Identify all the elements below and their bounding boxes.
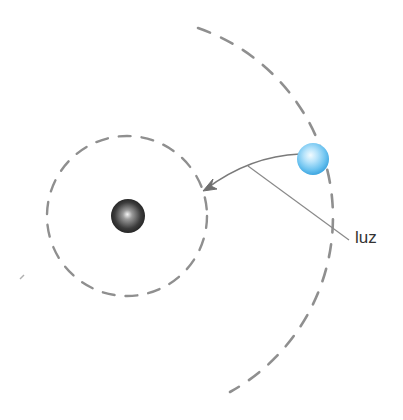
- light-label: luz: [355, 228, 377, 248]
- particle-sphere: [297, 143, 329, 175]
- orbit-diagram: [0, 0, 403, 420]
- trajectory-arrow: [206, 154, 300, 189]
- label-leader-line: [248, 166, 349, 240]
- arrowhead-icon: [203, 179, 217, 191]
- nucleus-sphere: [111, 199, 145, 233]
- outer-orbit-arc: [198, 28, 333, 392]
- stray-mark: [20, 275, 24, 279]
